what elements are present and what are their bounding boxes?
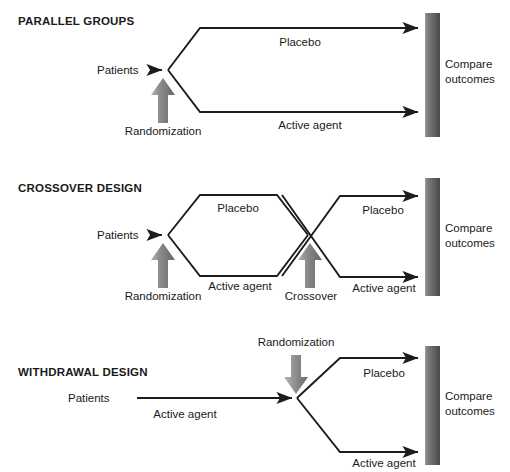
outcome-gradient-bar-icon-withdrawal — [425, 346, 440, 465]
edge-label-active-agent-parallel: Active agent — [278, 119, 342, 131]
edge-label-placebo-period2-crossover: Placebo — [362, 204, 404, 216]
edge-label-active-agent-runin-withdrawal: Active agent — [153, 408, 217, 420]
section-title-parallel-groups: PARALLEL GROUPS — [18, 15, 134, 27]
crossover-label: Crossover — [285, 290, 338, 302]
patients-label-withdrawal: Patients — [68, 392, 110, 404]
compare-outcomes-line2-crossover: outcomes — [445, 237, 495, 249]
patients-label-crossover: Patients — [97, 229, 139, 241]
compare-outcomes-line1-crossover: Compare — [445, 222, 492, 234]
edge-label-placebo-period1-crossover: Placebo — [217, 202, 259, 214]
trial-design-diagram: PARALLEL GROUPS Patients Placebo Active … — [0, 0, 510, 472]
edge-label-active-agent-period2-crossover: Active agent — [352, 282, 416, 294]
outcome-gradient-bar-icon-crossover — [425, 178, 440, 296]
randomization-label-crossover: Randomization — [125, 290, 202, 302]
compare-outcomes-line1-parallel: Compare — [445, 58, 492, 70]
randomization-label-parallel: Randomization — [125, 125, 202, 137]
randomization-label-withdrawal: Randomization — [258, 336, 335, 348]
edge-label-placebo-withdrawal: Placebo — [363, 367, 405, 379]
compare-outcomes-line1-withdrawal: Compare — [445, 390, 492, 402]
patients-label-parallel: Patients — [97, 64, 139, 76]
compare-outcomes-line2-parallel: outcomes — [445, 73, 495, 85]
edge-label-active-agent-withdrawal: Active agent — [352, 457, 416, 469]
section-title-crossover-design: CROSSOVER DESIGN — [18, 182, 142, 194]
section-title-withdrawal-design: WITHDRAWAL DESIGN — [18, 366, 148, 378]
compare-outcomes-line2-withdrawal: outcomes — [445, 405, 495, 417]
outcome-gradient-bar-icon-parallel — [425, 13, 440, 137]
edge-label-active-agent-period1-crossover: Active agent — [208, 280, 272, 292]
edge-label-placebo-parallel: Placebo — [279, 36, 321, 48]
